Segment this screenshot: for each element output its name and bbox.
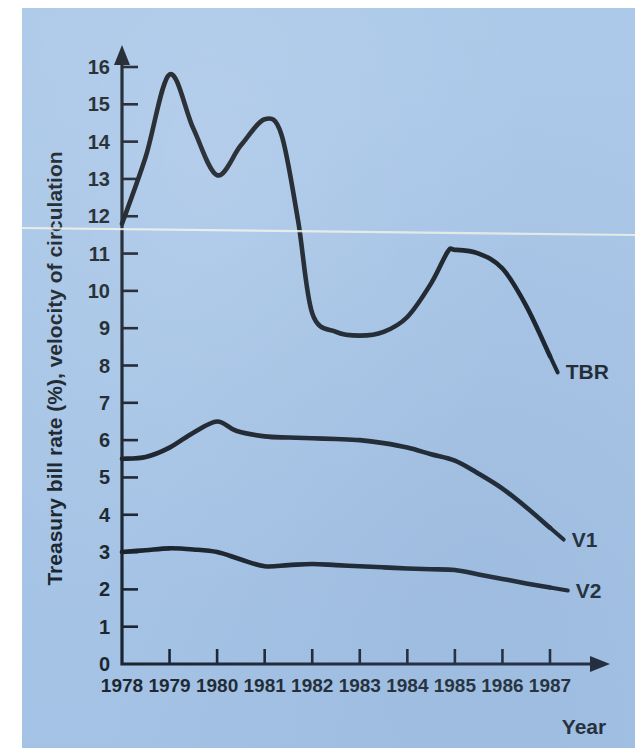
line-chart: 012345678910111213141516 197819791980198… [22, 8, 635, 748]
x-tick-label: 1982 [291, 675, 333, 696]
y-tick-label: 2 [99, 578, 110, 600]
x-tick-label: 1981 [244, 675, 287, 696]
y-axis-title: Treasury bill rate (%), velocity of circ… [43, 151, 66, 585]
x-tick-label: 1979 [148, 675, 190, 696]
x-tick-label: 1980 [196, 675, 238, 696]
y-tick-label: 8 [99, 355, 110, 377]
x-tick-label: 1987 [529, 675, 571, 696]
y-tick-label: 6 [99, 429, 110, 451]
x-axis-arrowhead [590, 656, 610, 672]
y-tick-label: 10 [88, 280, 110, 302]
y-tick-label: 3 [99, 541, 110, 563]
chart-axes [114, 45, 610, 672]
series-label-tbr: TBR [566, 360, 609, 383]
chart-paper: 012345678910111213141516 197819791980198… [22, 8, 635, 748]
y-tick-label: 15 [88, 93, 110, 115]
chart-axis-titles: Treasury bill rate (%), velocity of circ… [43, 151, 606, 738]
y-tick-label: 9 [99, 317, 110, 339]
y-axis-ticks: 012345678910111213141516 [88, 56, 138, 675]
x-axis-title: Year [562, 715, 606, 738]
series-leader-v1 [550, 528, 564, 540]
series-label-v1: V1 [572, 528, 598, 551]
x-tick-label: 1986 [481, 675, 523, 696]
series-line-v2 [122, 548, 550, 587]
series-leader-tbr [550, 356, 558, 372]
series-label-v2: V2 [576, 579, 602, 602]
x-tick-label: 1984 [386, 675, 429, 696]
axis-lines [122, 61, 594, 664]
series-line-v1 [122, 421, 550, 527]
y-tick-label: 4 [99, 504, 111, 526]
x-tick-label: 1985 [434, 675, 477, 696]
y-tick-label: 5 [99, 466, 110, 488]
x-tick-label: 1983 [339, 675, 381, 696]
figure-root: 012345678910111213141516 197819791980198… [0, 0, 635, 748]
chart-series-labels: TBRV1V2 [550, 356, 609, 601]
y-tick-label: 14 [88, 131, 111, 153]
series-line-tbr [122, 74, 550, 356]
y-tick-label: 12 [88, 205, 110, 227]
y-tick-label: 7 [99, 392, 110, 414]
chart-series-lines [122, 74, 550, 587]
y-tick-label: 11 [89, 243, 110, 265]
x-axis-ticks: 1978197919801981198219831984198519861987 [101, 649, 571, 696]
series-leader-v2 [550, 588, 568, 591]
y-tick-label: 13 [88, 168, 110, 190]
y-axis-arrowhead [114, 45, 130, 65]
y-tick-label: 0 [99, 653, 110, 675]
x-tick-label: 1978 [101, 675, 143, 696]
y-tick-label: 16 [88, 56, 110, 78]
y-tick-label: 1 [99, 616, 110, 638]
